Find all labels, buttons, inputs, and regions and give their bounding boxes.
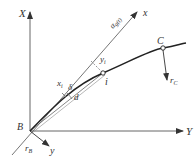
point-C-label: C (157, 35, 164, 46)
local-x-axis-line (12, 12, 137, 155)
Y-axis-label: Y (186, 125, 194, 137)
chord-d-line (30, 73, 103, 131)
point-C-marker (161, 46, 165, 50)
r-C-label: rC (170, 75, 179, 86)
r-C-arrow (163, 50, 167, 80)
coordinate-diagram: X Y x B C i δ d xi yi rC rB y αg(t) (0, 0, 194, 159)
X-axis-label: X (18, 7, 27, 19)
trajectory-curve (30, 43, 186, 131)
y-i-label: yi (99, 54, 106, 65)
diagram-canvas: X Y x B C i δ d xi yi rC rB y αg(t) (0, 0, 194, 159)
r-B-arrow (30, 131, 49, 146)
r-B-label: rB (25, 143, 33, 154)
chord-d-label: d (74, 92, 79, 102)
x-i-label: xi (56, 78, 63, 89)
point-i-label: i (105, 76, 108, 87)
x-axis-label: x (142, 7, 148, 18)
origin-B-label: B (17, 121, 23, 132)
angle-alpha-label: αg(t) (108, 15, 124, 31)
y-axis-label: y (49, 145, 55, 156)
point-i-marker (101, 71, 105, 75)
